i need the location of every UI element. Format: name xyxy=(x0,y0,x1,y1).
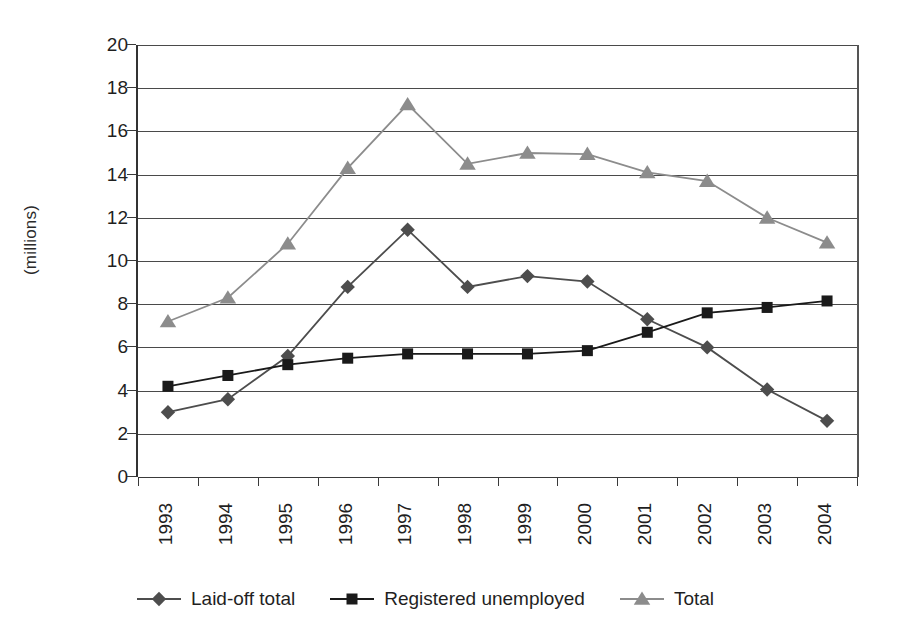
y-axis-tick-label: 16 xyxy=(88,120,128,142)
x-axis-tick xyxy=(797,477,798,486)
diamond-marker-icon xyxy=(221,392,235,406)
square-marker-icon xyxy=(762,302,773,313)
y-axis-tick-label: 10 xyxy=(88,250,128,272)
diamond-marker-icon xyxy=(640,312,654,326)
x-axis-tick xyxy=(677,477,678,486)
x-axis-tick-label-text: 1999 xyxy=(514,503,536,545)
y-axis-tick-label: 12 xyxy=(88,207,128,229)
square-marker-icon xyxy=(642,327,653,338)
x-axis-tick-label-text: 1995 xyxy=(275,503,297,545)
triangle-marker-icon xyxy=(639,165,656,178)
x-axis-tick xyxy=(857,477,858,486)
x-axis-tick-label: 1999 xyxy=(512,487,538,565)
x-axis-tick xyxy=(557,477,558,486)
square-marker-icon xyxy=(462,348,473,359)
y-axis-tick-label: 2 xyxy=(88,423,128,445)
x-axis-tick-label-text: 2003 xyxy=(754,503,776,545)
legend-marker xyxy=(329,590,375,606)
x-axis-tick-label: 2003 xyxy=(752,487,778,565)
legend-marker xyxy=(619,590,665,606)
square-marker-icon xyxy=(282,359,293,370)
y-axis-tick-label: 18 xyxy=(88,77,128,99)
y-axis-tick-label: 20 xyxy=(88,34,128,56)
square-marker-icon xyxy=(822,295,833,306)
y-axis-tick xyxy=(127,130,136,131)
x-axis-tick-label: 1994 xyxy=(213,487,239,565)
x-axis-tick xyxy=(737,477,738,486)
series-laid-off-total xyxy=(161,222,834,428)
y-axis-tick-label: 6 xyxy=(88,336,128,358)
line-chart: (millions) 02468101214161820 19931994199… xyxy=(0,0,918,630)
y-axis-tick xyxy=(127,303,136,304)
diamond-marker-icon xyxy=(580,274,594,288)
y-axis-tick xyxy=(127,476,136,477)
y-axis-tick xyxy=(127,390,136,391)
diamond-marker-icon xyxy=(520,269,534,283)
series-layer xyxy=(138,45,857,477)
x-axis-tick-label: 1996 xyxy=(333,487,359,565)
legend-marker xyxy=(136,590,182,606)
x-axis-tick xyxy=(378,477,379,486)
series-line xyxy=(168,104,827,321)
x-axis-tick xyxy=(617,477,618,486)
legend-label: Registered unemployed xyxy=(384,589,585,608)
y-axis-tick-label: 0 xyxy=(88,466,128,488)
x-axis-tick-labels: 1993199419951996199719981999200020012002… xyxy=(136,487,855,567)
y-axis-tick xyxy=(127,346,136,347)
diamond-marker-icon xyxy=(152,592,166,606)
square-marker-icon xyxy=(582,345,593,356)
y-axis-tick-label: 4 xyxy=(88,380,128,402)
triangle-marker-icon xyxy=(759,210,776,223)
y-axis-tick xyxy=(127,87,136,88)
x-axis-tick-label: 2001 xyxy=(632,487,658,565)
legend-label: Total xyxy=(674,589,714,608)
x-axis-tick-label-text: 1997 xyxy=(395,503,417,545)
square-marker-icon xyxy=(522,348,533,359)
x-axis-tick xyxy=(318,477,319,486)
x-axis-tick-label-text: 2000 xyxy=(574,503,596,545)
diamond-marker-icon xyxy=(700,340,714,354)
diamond-marker-icon xyxy=(760,382,774,396)
legend-entry[interactable]: Registered unemployed xyxy=(329,589,585,608)
y-axis-tick xyxy=(127,433,136,434)
square-marker-icon xyxy=(162,381,173,392)
x-axis-tick xyxy=(138,477,139,486)
y-axis-tick xyxy=(127,44,136,45)
y-axis-tick xyxy=(127,260,136,261)
series-line xyxy=(168,230,827,421)
x-axis-tick-label: 2004 xyxy=(812,487,838,565)
chart-legend: Laid-off totalRegistered unemployedTotal xyxy=(136,578,836,618)
plot-area xyxy=(136,45,859,477)
series-line xyxy=(168,301,827,386)
series-registered-unemployed xyxy=(162,295,832,391)
y-axis-tick xyxy=(127,217,136,218)
x-axis-tick-label: 1997 xyxy=(393,487,419,565)
x-axis-tick-label: 2000 xyxy=(572,487,598,565)
y-axis-title-text: (millions) xyxy=(21,205,41,275)
x-axis-tick-label: 1995 xyxy=(273,487,299,565)
triangle-marker-icon xyxy=(519,146,536,159)
y-axis-tick-labels: 02468101214161820 xyxy=(50,0,128,630)
x-axis-tick-label-text: 1998 xyxy=(455,503,477,545)
x-axis-tick-label-text: 1993 xyxy=(155,503,177,545)
x-axis-tick xyxy=(498,477,499,486)
x-axis-tick xyxy=(258,477,259,486)
x-axis-tick-label-text: 2001 xyxy=(634,503,656,545)
square-marker-icon xyxy=(702,307,713,318)
x-axis-tick-label: 2002 xyxy=(692,487,718,565)
x-axis-tick-label-text: 2004 xyxy=(814,503,836,545)
x-axis-tick-label-text: 1994 xyxy=(215,503,237,545)
y-axis-tick-label: 8 xyxy=(88,293,128,315)
triangle-marker-icon xyxy=(399,97,416,110)
square-marker-icon xyxy=(402,348,413,359)
triangle-marker-icon xyxy=(819,235,836,248)
square-marker-icon xyxy=(342,353,353,364)
square-marker-icon xyxy=(222,370,233,381)
legend-entry[interactable]: Total xyxy=(619,589,714,608)
x-axis-tick-label-text: 1996 xyxy=(335,503,357,545)
y-axis-tick xyxy=(127,174,136,175)
series-total xyxy=(160,97,836,327)
legend-label: Laid-off total xyxy=(191,589,295,608)
x-axis-tick xyxy=(198,477,199,486)
legend-entry[interactable]: Laid-off total xyxy=(136,589,295,608)
